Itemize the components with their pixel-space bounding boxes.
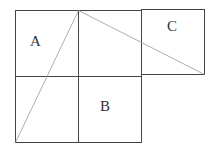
square-grid-diagram: A B C (0, 0, 218, 156)
square-bottom-left (16, 77, 79, 143)
square-top-middle (79, 11, 142, 77)
label-c: C (167, 18, 177, 34)
label-b: B (100, 98, 110, 114)
label-a: A (30, 33, 41, 49)
square-a (16, 11, 79, 77)
